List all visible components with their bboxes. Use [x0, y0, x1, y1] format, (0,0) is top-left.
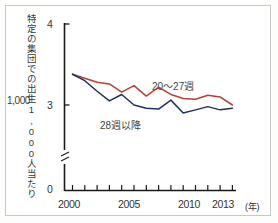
series-line-28-weeks-onward	[73, 74, 233, 113]
y-axis-label-number: 1,000	[7, 95, 30, 106]
series-line-20-27-weeks	[73, 74, 233, 105]
axis-break-icon	[60, 150, 70, 164]
chart-figure: 特定の集団での出生1,000人当たりの胎児死亡率 4 3 0 2000 2005…	[0, 0, 278, 223]
chart-plot-area	[0, 0, 278, 223]
x-axis-ticks	[73, 185, 233, 191]
